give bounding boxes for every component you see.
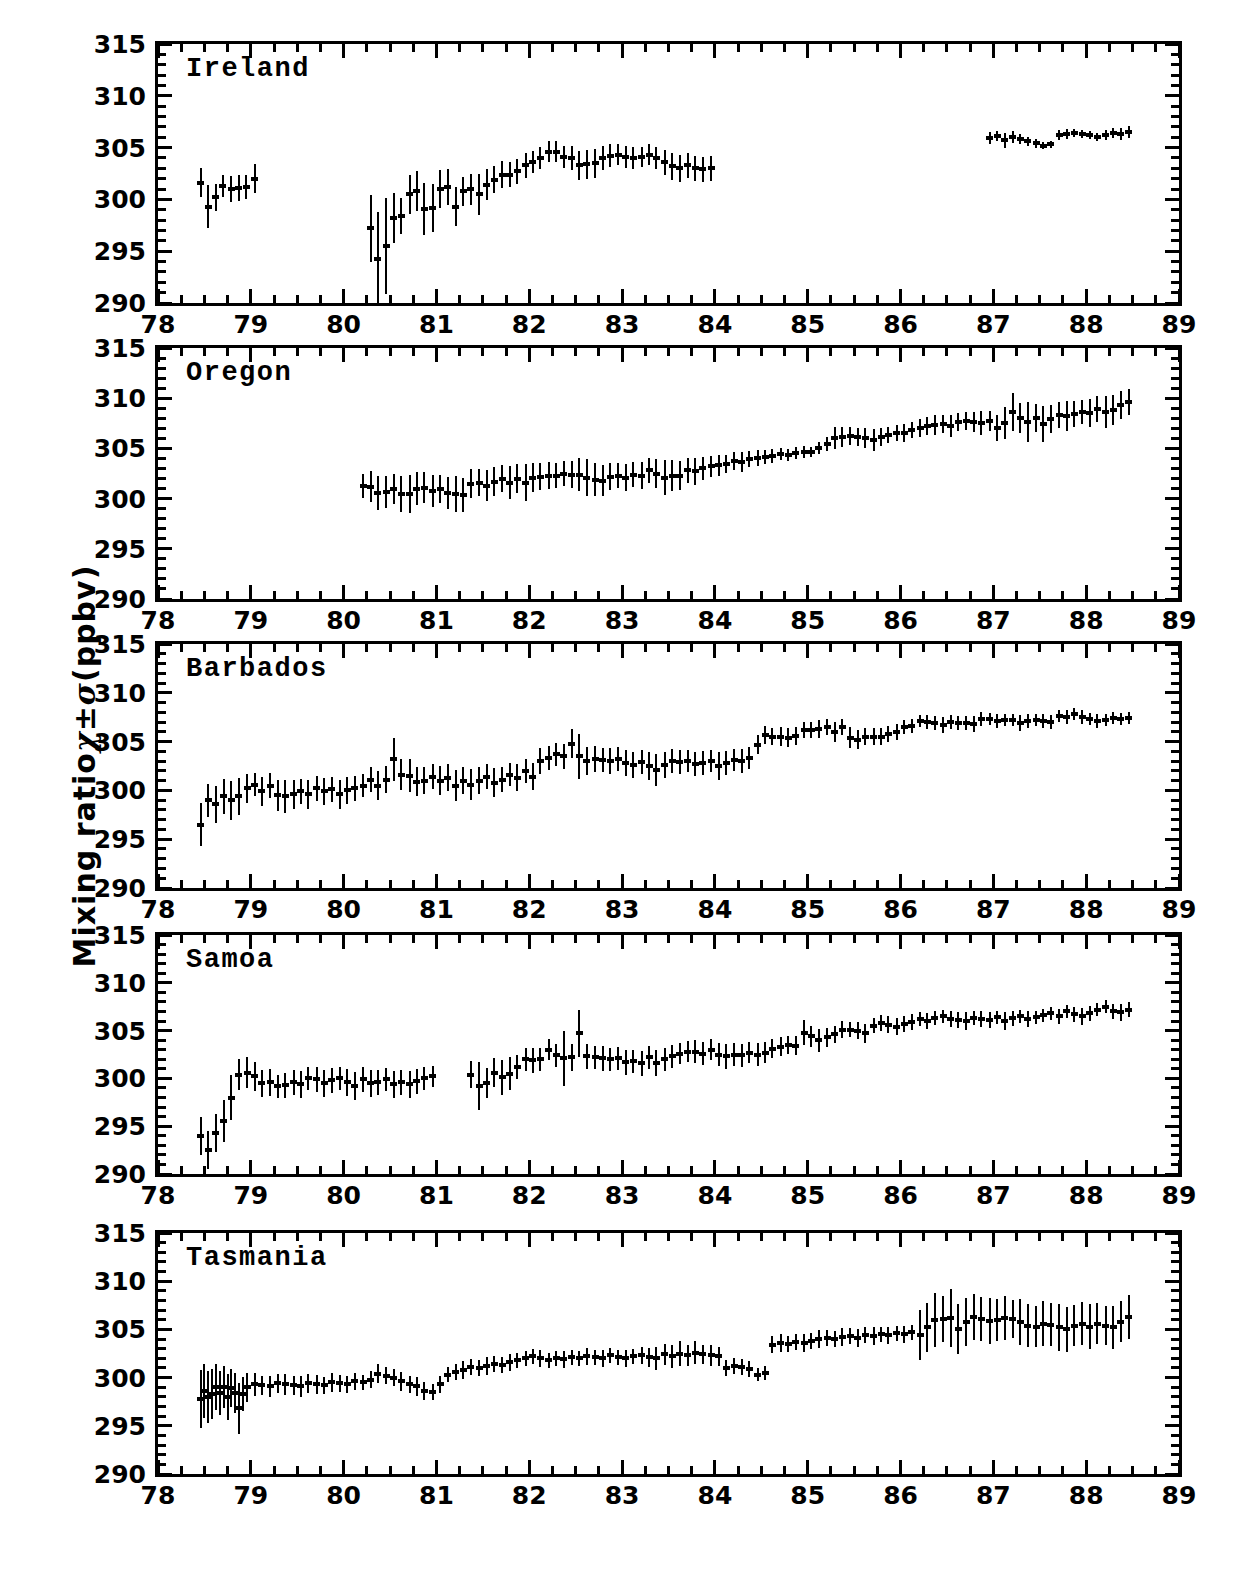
x-tick-major [157, 643, 160, 658]
x-tick-label: 89 [1149, 1483, 1209, 1508]
x-tick-major [806, 347, 809, 362]
data-point [592, 161, 599, 165]
y-tick-minor [1171, 1318, 1180, 1321]
y-tick-minor [157, 1270, 166, 1273]
y-tick-minor [157, 557, 166, 560]
data-point [801, 1031, 808, 1035]
x-tick-major [713, 934, 716, 949]
data-point [792, 1044, 799, 1048]
data-point [413, 780, 420, 784]
x-tick-minor [389, 295, 392, 304]
x-tick-minor [180, 347, 183, 356]
data-point [870, 438, 877, 442]
data-point [762, 733, 769, 737]
data-point [1117, 403, 1124, 407]
data-point [491, 781, 498, 785]
y-tick-major [157, 740, 172, 743]
x-tick-label: 88 [1056, 1483, 1116, 1508]
data-point [986, 1018, 993, 1022]
y-tick-minor [1171, 847, 1180, 850]
x-tick-minor [505, 880, 508, 889]
panel-title-ireland: Ireland [186, 54, 310, 84]
y-tick-minor [157, 239, 166, 242]
data-point [235, 1406, 242, 1410]
y-tick-label: 295 [88, 1414, 146, 1439]
data-point [460, 779, 467, 783]
y-tick-minor [1171, 407, 1180, 410]
y-tick-minor [157, 417, 166, 420]
x-tick-minor [876, 1232, 879, 1241]
x-tick-major [342, 1460, 345, 1475]
x-tick-minor [481, 347, 484, 356]
data-point [421, 1389, 428, 1393]
data-point [476, 481, 483, 485]
x-tick-major [992, 585, 995, 600]
x-tick-label: 82 [499, 312, 559, 337]
x-tick-minor [853, 1232, 856, 1241]
x-tick-major [528, 1232, 531, 1247]
x-tick-major [342, 585, 345, 600]
y-tick-label: 300 [88, 1366, 146, 1391]
y-tick-minor [1171, 701, 1180, 704]
data-point [955, 721, 962, 725]
data-point [715, 1053, 722, 1057]
data-point [592, 1355, 599, 1359]
x-tick-minor [1038, 1232, 1041, 1241]
x-tick-minor [319, 347, 322, 356]
x-tick-minor [412, 1466, 415, 1475]
y-tick-minor [1171, 105, 1180, 108]
x-tick-minor [737, 295, 740, 304]
data-point [931, 423, 938, 427]
y-tick-minor [157, 281, 166, 284]
x-tick-minor [737, 934, 740, 943]
x-tick-minor [1154, 1232, 1157, 1241]
x-tick-minor [783, 1166, 786, 1175]
x-tick-minor [829, 1232, 832, 1241]
data-point [235, 794, 242, 798]
x-tick-minor [551, 934, 554, 943]
data-point [854, 1336, 861, 1340]
data-point [676, 1352, 683, 1356]
data-point [374, 491, 381, 495]
x-tick-major [528, 874, 531, 889]
data-point [251, 177, 258, 181]
y-tick-minor [157, 577, 166, 580]
y-tick-minor [1171, 991, 1180, 994]
x-tick-minor [389, 643, 392, 652]
x-tick-minor [876, 591, 879, 600]
x-tick-major [806, 874, 809, 889]
x-tick-label: 81 [406, 608, 466, 633]
x-tick-minor [505, 43, 508, 52]
data-point [630, 156, 637, 160]
data-point [568, 156, 575, 160]
data-point [607, 759, 614, 763]
x-tick-minor [783, 43, 786, 52]
x-tick-label: 89 [1149, 312, 1209, 337]
x-tick-major [1178, 585, 1181, 600]
x-tick-major [435, 1160, 438, 1175]
x-tick-minor [945, 1232, 948, 1241]
data-point [374, 257, 381, 261]
data-point [367, 778, 374, 782]
data-point [1102, 718, 1109, 722]
data-point [893, 730, 900, 734]
y-tick-label: 310 [88, 1269, 146, 1294]
figure-root: Mixing ratio χ±σ (ppbv) Ireland290295300… [0, 0, 1239, 1573]
data-point [1063, 414, 1070, 418]
x-tick-label: 88 [1056, 1183, 1116, 1208]
x-tick-minor [319, 295, 322, 304]
data-point [661, 763, 668, 767]
data-point [924, 720, 931, 724]
x-tick-minor [296, 295, 299, 304]
y-tick-major [1165, 1280, 1180, 1283]
x-tick-major [713, 1460, 716, 1475]
data-point [885, 1333, 892, 1337]
data-point [383, 244, 390, 248]
data-point [738, 759, 745, 763]
data-point [1024, 719, 1031, 723]
data-point [1125, 1315, 1132, 1319]
data-point [529, 775, 536, 779]
data-point [870, 1334, 877, 1338]
x-tick-minor [458, 43, 461, 52]
data-point [506, 773, 513, 777]
